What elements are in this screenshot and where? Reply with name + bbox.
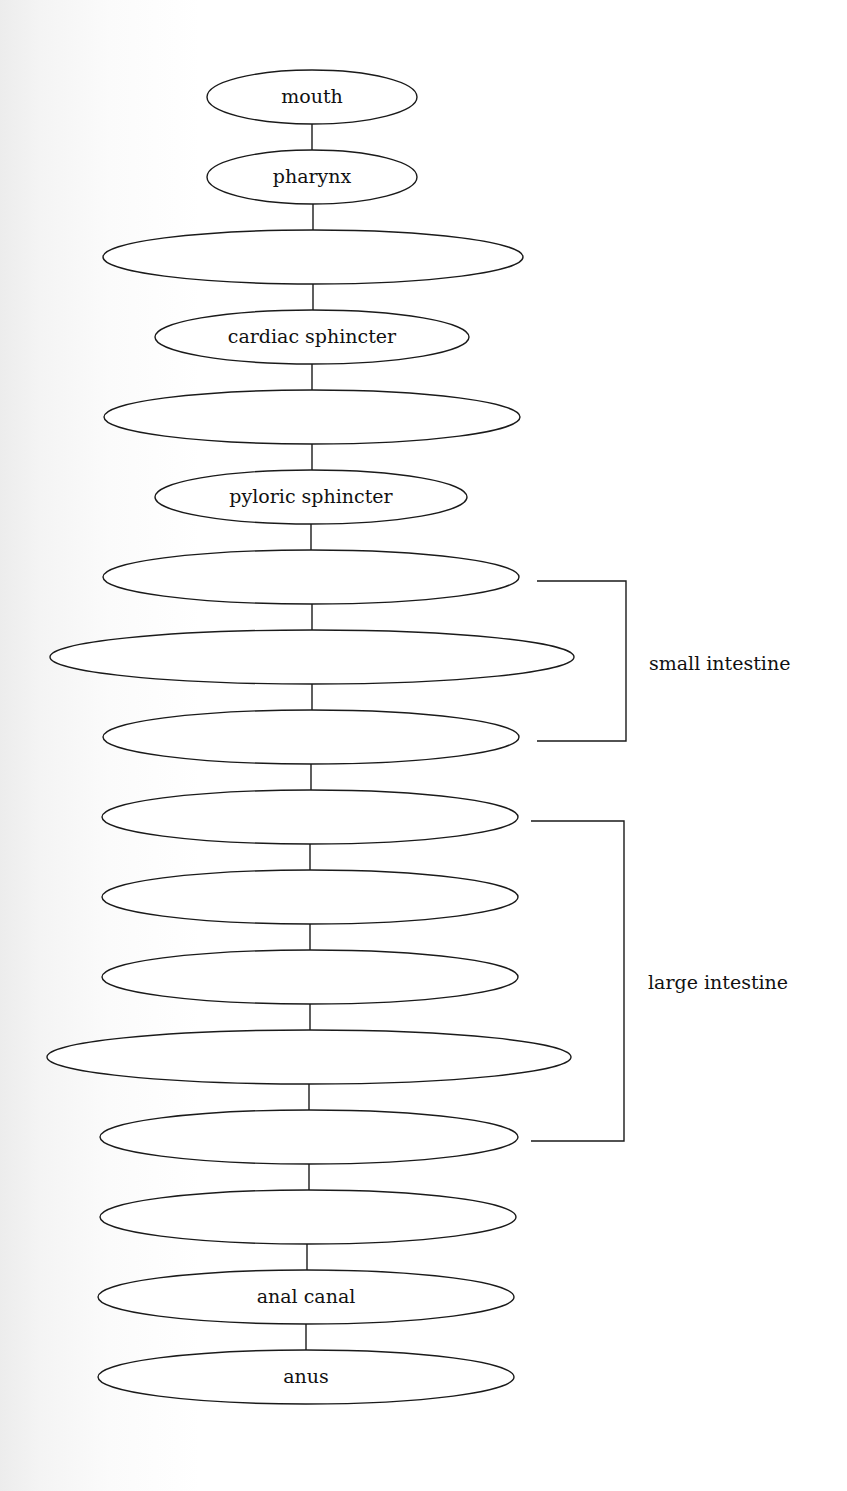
node-label: anus (283, 1365, 329, 1387)
node-blank-n10 (102, 790, 518, 844)
node-anus: anus (98, 1350, 514, 1404)
node-label: mouth (281, 85, 343, 107)
node-blank-n11 (102, 870, 518, 924)
node-blank-n3 (103, 230, 523, 284)
node-anal-canal: anal canal (98, 1270, 514, 1324)
node-ellipse (100, 1190, 516, 1244)
node-label: anal canal (257, 1285, 356, 1307)
small-intestine-label: small intestine (649, 652, 790, 674)
node-ellipse (103, 230, 523, 284)
node-label: pyloric sphincter (229, 485, 393, 507)
node-blank-n5 (104, 390, 520, 444)
node-blank-n9 (103, 710, 519, 764)
node-pyloric-sphincter: pyloric sphincter (155, 470, 467, 524)
node-blank-n12 (102, 950, 518, 1004)
node-cardiac-sphincter: cardiac sphincter (155, 310, 469, 364)
node-pharynx: pharynx (207, 150, 417, 204)
digestive-tract-flowchart: mouthpharynxcardiac sphincterpyloric sph… (0, 0, 847, 1491)
node-label: cardiac sphincter (228, 325, 397, 347)
node-ellipse (100, 1110, 518, 1164)
node-blank-n14 (100, 1110, 518, 1164)
group-labels: small intestinelarge intestine (648, 652, 790, 993)
node-ellipse (103, 550, 519, 604)
node-ellipse (103, 710, 519, 764)
node-blank-n7 (103, 550, 519, 604)
node-ellipse (104, 390, 520, 444)
flowchart-nodes: mouthpharynxcardiac sphincterpyloric sph… (47, 70, 574, 1404)
node-ellipse (47, 1030, 571, 1084)
node-blank-n8 (50, 630, 574, 684)
node-blank-n13 (47, 1030, 571, 1084)
node-label: pharynx (273, 165, 352, 187)
node-ellipse (50, 630, 574, 684)
node-ellipse (102, 870, 518, 924)
large-intestine-label: large intestine (648, 971, 788, 993)
node-ellipse (102, 950, 518, 1004)
large-intestine-bracket (531, 821, 624, 1141)
node-blank-n15 (100, 1190, 516, 1244)
node-mouth: mouth (207, 70, 417, 124)
node-ellipse (102, 790, 518, 844)
